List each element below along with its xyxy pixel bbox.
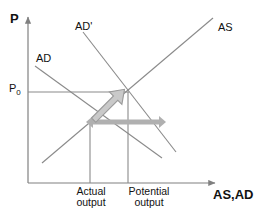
x-marker-actual-output: Actualoutput: [65, 186, 117, 208]
shift-arrow: [92, 89, 125, 122]
price-tick-label: P0: [9, 83, 21, 98]
x-marker-potential-output: Potentialoutput: [120, 186, 178, 208]
curve-label-ad: AD: [36, 53, 51, 65]
potential-output-line2: output: [120, 197, 178, 208]
y-axis-label: P: [10, 12, 19, 26]
price-tick-subscript: 0: [16, 88, 20, 97]
ad-as-diagram: P AS,AD P0 AD AD' AS Actualoutput Potent…: [0, 0, 265, 220]
x-axis-label: AS,AD: [213, 188, 253, 202]
curve-label-ad-prime: AD': [75, 21, 92, 33]
curve-label-as: AS: [218, 22, 233, 34]
actual-output-line2: output: [65, 197, 117, 208]
